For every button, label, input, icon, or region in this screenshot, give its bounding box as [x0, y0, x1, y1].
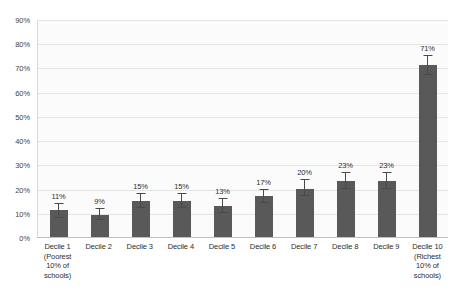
bar-slot: 11% — [38, 20, 79, 237]
error-bar-cap-bottom — [177, 207, 186, 208]
bar-slot: 23% — [325, 20, 366, 237]
bar-data-label: 13% — [215, 187, 230, 196]
x-axis-category-line: Decile 2 — [78, 242, 119, 252]
x-axis-category-label: Decile 1(Poorest10% ofschools) — [37, 240, 78, 302]
error-bar-line — [263, 189, 264, 204]
x-axis-category-line: Decile 10 — [407, 242, 448, 252]
error-bar-cap-top — [95, 208, 104, 209]
y-axis-tick-label: 70% — [15, 64, 30, 73]
error-bar-line — [304, 179, 305, 196]
x-axis-category-line: Decile 6 — [242, 242, 283, 252]
bar-slot: 23% — [366, 20, 407, 237]
x-axis-category-line: Decile 5 — [201, 242, 242, 252]
bar-data-label: 23% — [379, 161, 394, 170]
error-bar-cap-top — [259, 189, 268, 190]
y-axis-tick-label: 30% — [15, 161, 30, 170]
x-axis-category-line: Decile 4 — [160, 242, 201, 252]
bar[interactable] — [419, 65, 437, 237]
bar-data-label: 15% — [174, 182, 189, 191]
x-axis-category-label: Decile 2 — [78, 240, 119, 302]
x-axis-category-label: Decile 9 — [366, 240, 407, 302]
error-bar — [177, 193, 186, 208]
bar-series: 11%9%15%15%13%17%20%23%23%71% — [38, 20, 448, 237]
error-bar — [259, 189, 268, 204]
error-bar-cap-bottom — [423, 74, 432, 75]
x-axis-category-line: Decile 1 — [37, 242, 78, 252]
bar-data-label: 11% — [51, 192, 65, 201]
x-axis-category-line: Decile 9 — [366, 242, 407, 252]
y-axis-tick-label: 90% — [15, 16, 30, 25]
error-bar — [218, 198, 227, 213]
bar-data-label: 15% — [133, 182, 148, 191]
error-bar — [54, 203, 63, 218]
y-axis-tick-label: 0% — [19, 234, 30, 243]
bar-data-label: 71% — [420, 44, 435, 53]
x-axis-category-line: Decile 8 — [325, 242, 366, 252]
error-bar — [136, 193, 145, 208]
x-axis-category-label: Decile 3 — [119, 240, 160, 302]
x-axis-category-line: 10% of — [37, 261, 78, 271]
x-axis-category-line: schools) — [37, 271, 78, 281]
bar-slot: 17% — [243, 20, 284, 237]
x-axis-category-line: schools) — [407, 271, 448, 281]
x-axis-category-line: Decile 3 — [119, 242, 160, 252]
bar-slot: 13% — [202, 20, 243, 237]
error-bar-cap-top — [177, 193, 186, 194]
error-bar-cap-top — [218, 198, 227, 199]
y-axis-tick-label: 80% — [15, 40, 30, 49]
error-bar-line — [345, 172, 346, 189]
x-axis-category-label: Decile 5 — [201, 240, 242, 302]
error-bar-cap-bottom — [341, 188, 350, 189]
x-axis-category-line: Decile 7 — [284, 242, 325, 252]
error-bar-line — [140, 193, 141, 208]
bar-slot: 15% — [161, 20, 202, 237]
error-bar — [300, 179, 309, 196]
bar-data-label: 23% — [338, 161, 353, 170]
bar-data-label: 20% — [297, 168, 312, 177]
error-bar-cap-bottom — [136, 207, 145, 208]
y-axis-tick-label: 20% — [15, 185, 30, 194]
bar-slot: 15% — [120, 20, 161, 237]
x-axis-category-label: Decile 10(Richest10% ofschools) — [407, 240, 448, 302]
x-axis-category-label: Decile 6 — [242, 240, 283, 302]
error-bar-cap-top — [423, 55, 432, 56]
error-bar-line — [181, 193, 182, 208]
error-bar-cap-bottom — [54, 217, 63, 218]
error-bar-cap-top — [136, 193, 145, 194]
y-axis-tick-label: 60% — [15, 88, 30, 97]
y-axis-tick-label: 40% — [15, 137, 30, 146]
plot-area: 11%9%15%15%13%17%20%23%23%71% — [37, 20, 448, 238]
error-bar-cap-top — [300, 179, 309, 180]
error-bar-cap-bottom — [300, 195, 309, 196]
x-axis-category-line: 10% of — [407, 261, 448, 271]
error-bar-cap-top — [54, 203, 63, 204]
x-axis-category-line: (Richest — [407, 252, 448, 262]
error-bar-line — [222, 198, 223, 213]
bar[interactable] — [337, 181, 355, 237]
error-bar-cap-bottom — [218, 212, 227, 213]
y-axis-tick-label: 50% — [15, 112, 30, 121]
error-bar-line — [58, 203, 59, 218]
x-axis-category-label: Decile 7 — [284, 240, 325, 302]
error-bar-cap-top — [382, 172, 391, 173]
bar-chart: 90%80%70%60%50%40%30%20%10%0% 11%9%15%15… — [0, 0, 458, 306]
error-bar — [423, 55, 432, 74]
error-bar-cap-bottom — [259, 202, 268, 203]
error-bar-cap-top — [341, 172, 350, 173]
error-bar — [341, 172, 350, 189]
error-bar-line — [427, 55, 428, 74]
x-axis-category-label: Decile 8 — [325, 240, 366, 302]
bar-slot: 20% — [284, 20, 325, 237]
bar-slot: 9% — [79, 20, 120, 237]
error-bar-cap-bottom — [95, 219, 104, 220]
error-bar — [95, 208, 104, 220]
bar-data-label: 17% — [256, 178, 271, 187]
y-axis: 90%80%70%60%50%40%30%20%10%0% — [0, 20, 34, 238]
bar-data-label: 9% — [94, 197, 105, 206]
x-axis-category-label: Decile 4 — [160, 240, 201, 302]
bar-slot: 71% — [407, 20, 448, 237]
bar[interactable] — [296, 189, 314, 237]
x-axis: Decile 1(Poorest10% ofschools)Decile 2De… — [37, 240, 448, 302]
x-axis-category-line: (Poorest — [37, 252, 78, 262]
bar[interactable] — [378, 181, 396, 237]
